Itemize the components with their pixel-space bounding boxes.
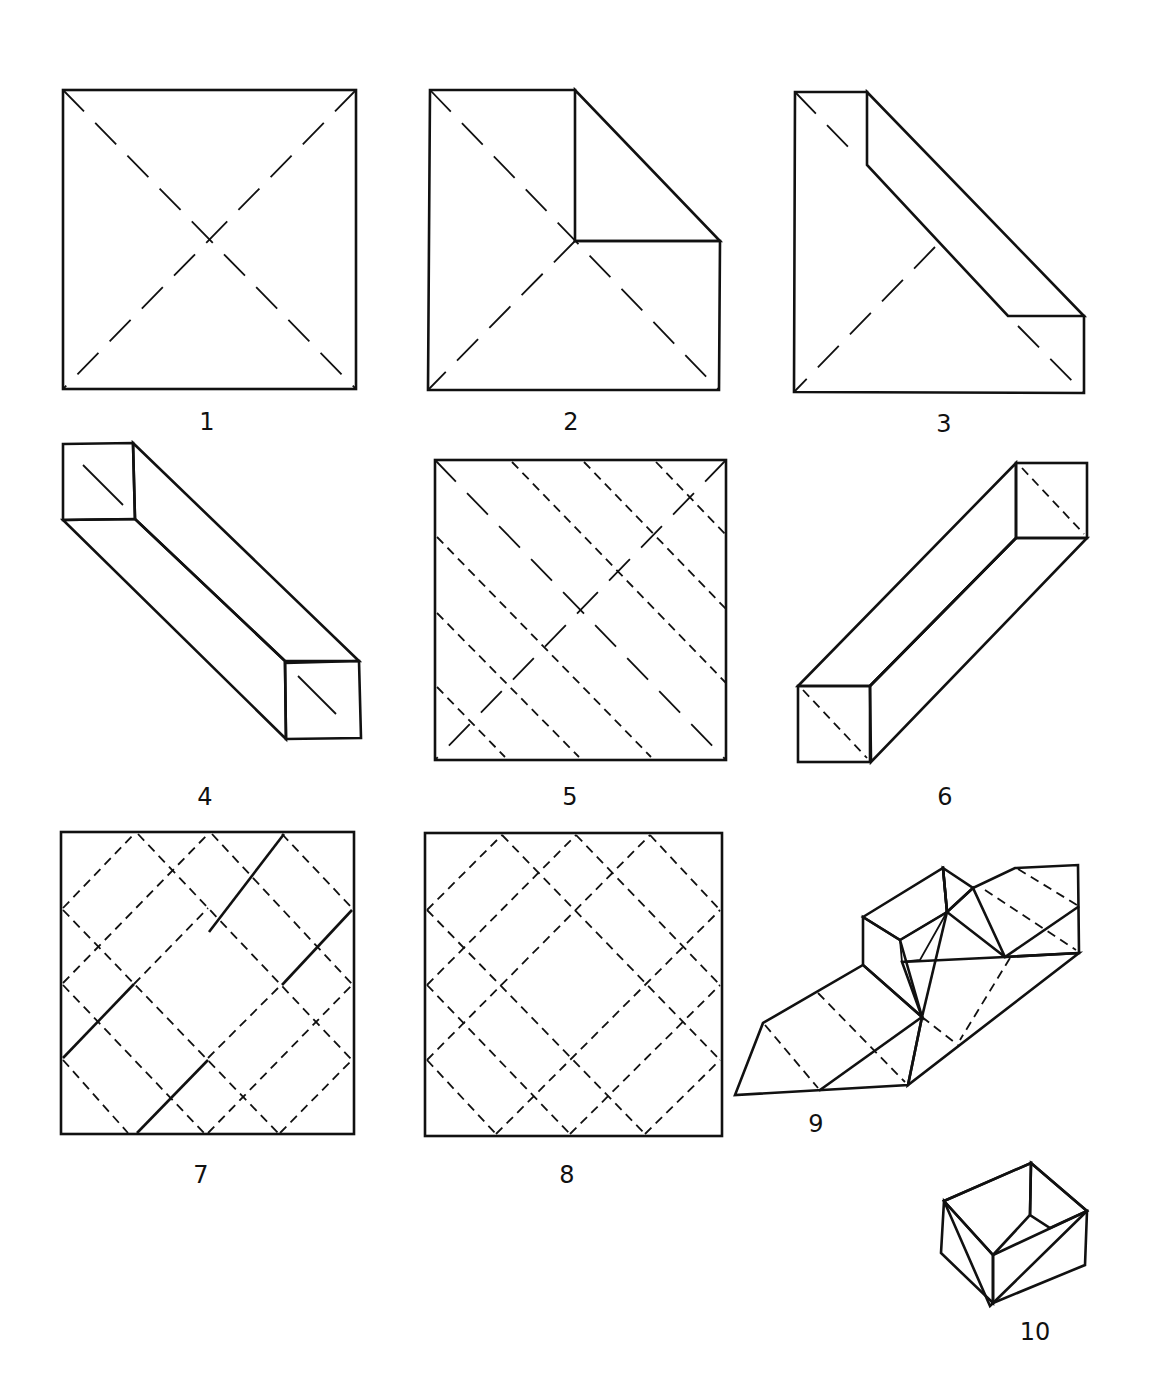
- valley-fold: [63, 1060, 128, 1133]
- edge-line: [922, 912, 947, 1017]
- box-back-wall: [944, 1163, 1031, 1255]
- mountain-fold: [63, 984, 134, 1058]
- valley-fold: [63, 985, 204, 1133]
- valley-fold: [208, 984, 282, 1058]
- step-label-1: 1: [187, 410, 227, 434]
- valley-fold: [645, 1060, 720, 1134]
- hatched-panel: [902, 953, 1079, 1085]
- valley-fold: [427, 1060, 496, 1134]
- step-label-7: 7: [181, 1163, 221, 1187]
- left-flap: [735, 965, 922, 1095]
- step-label-4: 4: [185, 785, 225, 809]
- valley-fold-diagonal: [1018, 326, 1084, 393]
- edge-line: [820, 1017, 922, 1090]
- step-label-10: 10: [1015, 1320, 1055, 1344]
- valley-fold-diagonal: [794, 247, 935, 392]
- step-2-diagram: [428, 90, 720, 390]
- paper-square: [425, 833, 722, 1136]
- mountain-fold: [282, 910, 352, 985]
- valley-fold-diagonal: [795, 92, 858, 157]
- side-face-hatched: [870, 538, 1087, 762]
- edge-line: [1005, 907, 1078, 957]
- step-1-diagram: [63, 90, 356, 389]
- step-9-diagram: [735, 865, 1079, 1095]
- valley-fold: [576, 835, 720, 985]
- mountain-fold: [209, 834, 284, 932]
- valley-fold: [134, 908, 208, 984]
- step-10-diagram: [941, 1163, 1087, 1306]
- paper-square: [61, 832, 354, 1134]
- valley-fold: [650, 835, 720, 910]
- mountain-fold: [137, 1060, 208, 1133]
- valley-fold: [502, 835, 720, 1060]
- step-label-5: 5: [550, 785, 590, 809]
- valley-fold-diagonal: [428, 241, 575, 390]
- valley-fold: [427, 985, 570, 1134]
- hatched-wall: [863, 868, 947, 940]
- step-label-3: 3: [924, 412, 964, 436]
- box-inner: [944, 1163, 1087, 1306]
- valley-fold: [1022, 468, 1084, 534]
- valley-fold: [427, 835, 650, 1060]
- valley-fold: [212, 834, 352, 984]
- valley-fold: [427, 835, 576, 985]
- step-label-8: 8: [547, 1163, 587, 1187]
- step-3-diagram: [794, 92, 1084, 393]
- side-face-hatched: [63, 519, 286, 739]
- fold-line: [298, 676, 336, 714]
- step-5-diagram: [435, 460, 726, 760]
- edge-line: [870, 538, 1016, 686]
- step-label-6: 6: [925, 785, 965, 809]
- step-7-diagram: [61, 832, 354, 1134]
- valley-fold: [803, 690, 867, 758]
- valley-fold: [280, 1060, 352, 1133]
- valley-fold: [427, 910, 645, 1134]
- step-8-diagram: [425, 833, 722, 1136]
- triangle-flap: [947, 888, 1005, 957]
- step-6-diagram: [798, 463, 1087, 762]
- valley-fold: [63, 834, 208, 983]
- valley-fold: [584, 462, 726, 609]
- step-label-2: 2: [551, 410, 591, 434]
- valley-fold: [1018, 869, 1077, 905]
- valley-fold: [922, 1017, 958, 1045]
- valley-fold: [570, 985, 720, 1134]
- valley-fold: [63, 834, 134, 908]
- valley-fold: [427, 835, 502, 910]
- top-face-hatched: [133, 443, 359, 661]
- valley-fold: [208, 985, 352, 1133]
- edge-line: [943, 868, 947, 912]
- fold-line: [83, 465, 123, 505]
- step-label-9: 9: [796, 1112, 836, 1136]
- valley-fold: [765, 1025, 818, 1088]
- step-4-diagram: [63, 443, 361, 739]
- top-face-hatched: [798, 463, 1016, 686]
- folded-corner-hatched: [575, 90, 720, 241]
- valley-fold: [656, 462, 726, 535]
- valley-fold: [960, 958, 1010, 1040]
- valley-fold: [282, 834, 352, 908]
